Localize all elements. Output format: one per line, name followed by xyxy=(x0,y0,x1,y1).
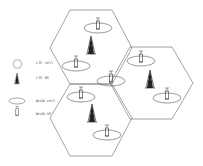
tower-icon xyxy=(14,73,20,84)
access-point-icon xyxy=(79,87,83,98)
hexagon-icon xyxy=(13,60,22,68)
tower-icon xyxy=(87,104,97,122)
access-point-icon xyxy=(105,125,109,136)
legend-label-lte-cell: LTE cell xyxy=(36,61,53,65)
wlan-cell xyxy=(153,93,181,103)
wlan-cell xyxy=(127,56,155,66)
access-point-icon xyxy=(74,56,78,67)
tower-icon xyxy=(145,70,155,88)
access-point-icon xyxy=(165,88,169,99)
wlan-cell xyxy=(62,61,90,71)
tower-icon xyxy=(86,36,96,54)
wlan-cell xyxy=(67,92,95,102)
wlan-cell xyxy=(93,130,121,140)
access-point-icon xyxy=(139,51,143,62)
wlan-cell xyxy=(84,23,112,33)
legend-label-wlan-cell: WLAN cell xyxy=(36,99,55,103)
access-point-icon xyxy=(96,18,100,29)
legend-label-wlan-ap: WLAN AP xyxy=(36,112,51,116)
access-point-icon xyxy=(15,106,18,115)
network-diagram: LTE cell LTE BS WLAN cell WLAN AP xyxy=(0,0,203,166)
ellipse-icon xyxy=(9,98,25,104)
legend: LTE cell LTE BS WLAN cell WLAN AP xyxy=(9,60,55,116)
access-point-icon xyxy=(109,71,113,82)
legend-label-lte-bs: LTE BS xyxy=(36,76,49,80)
